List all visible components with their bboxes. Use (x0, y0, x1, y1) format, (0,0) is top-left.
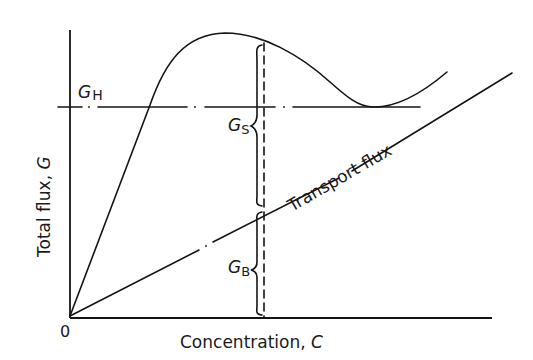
gs-brace (251, 45, 262, 206)
gh-label: GH (78, 82, 103, 103)
gs-label: GS (228, 115, 249, 137)
total-flux-curve (70, 33, 447, 316)
flux-diagram: Transport flux GH GS GB 0 Concentration,… (0, 0, 533, 360)
x-axis-label: Concentration, C (180, 332, 323, 352)
y-axis-label: Total flux, G (34, 156, 54, 258)
transport-flux-label: Transport flux (283, 140, 395, 216)
gb-label: GB (228, 257, 250, 279)
gb-brace (251, 212, 262, 315)
origin-label: 0 (60, 322, 70, 341)
